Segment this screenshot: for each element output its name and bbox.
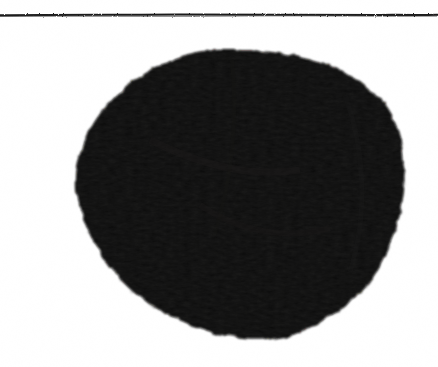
dark-specimen-blob (0, 0, 438, 367)
figure-canvas (0, 0, 438, 367)
dark-specimen-blob-graphic (0, 0, 438, 367)
blob-interior-texture (70, 44, 415, 349)
